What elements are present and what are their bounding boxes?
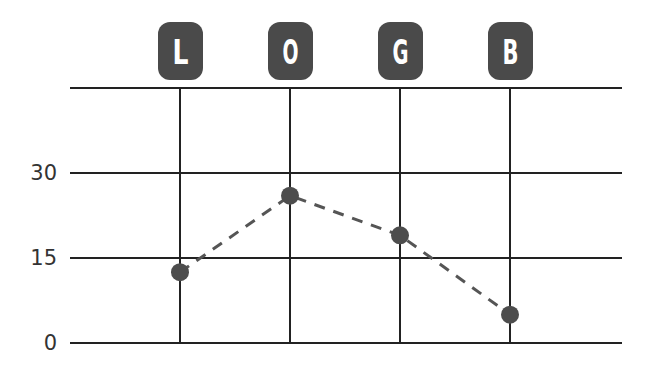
- category-badge-o: O: [268, 22, 313, 80]
- data-points: [171, 187, 519, 324]
- series-line: [180, 196, 510, 315]
- y-tick-label: 15: [30, 246, 57, 270]
- grid-lines: [70, 88, 622, 343]
- svg-text:G: G: [393, 32, 409, 72]
- svg-text:L: L: [173, 32, 189, 72]
- svg-text:B: B: [503, 32, 519, 72]
- data-point-o: [281, 187, 299, 205]
- data-point-b: [501, 306, 519, 324]
- y-axis-ticks: 01530: [30, 161, 57, 355]
- category-badge-b: B: [488, 22, 533, 80]
- x-category-badges: LOGB: [158, 22, 533, 80]
- y-tick-label: 30: [30, 161, 57, 185]
- svg-text:O: O: [283, 32, 299, 72]
- category-badge-g: G: [378, 22, 423, 80]
- y-tick-label: 0: [44, 331, 57, 355]
- data-point-g: [391, 226, 409, 244]
- chart: 01530LOGB: [0, 0, 649, 370]
- category-badge-l: L: [158, 22, 203, 80]
- data-point-l: [171, 263, 189, 281]
